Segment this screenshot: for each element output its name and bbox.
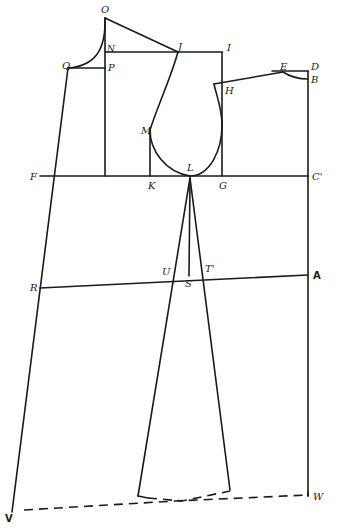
armhole-curve (150, 52, 222, 176)
label-u: U (162, 267, 170, 277)
label-k: K (148, 181, 155, 191)
neck-curve-e-b (283, 72, 308, 79)
label-f: F (30, 172, 37, 182)
label-h: H (225, 86, 234, 96)
line-l-s (189, 178, 190, 276)
label-v: V (5, 514, 13, 524)
line-skirt-hem-left (138, 496, 148, 498)
label-w: W (313, 492, 323, 502)
line-q-v (12, 68, 68, 512)
label-m: M (141, 126, 151, 136)
label-g: G (219, 181, 227, 191)
label-c-prime: C' (312, 172, 322, 182)
line-h-e (214, 72, 283, 84)
label-q: Q (62, 61, 70, 71)
label-a: A (313, 271, 321, 281)
hem-dashed-skirt (148, 491, 230, 501)
label-d: D (311, 62, 319, 72)
label-o: O (101, 5, 109, 15)
line-o-j (105, 18, 178, 52)
label-n: N (107, 45, 115, 54)
label-s: S (185, 279, 192, 289)
label-l: L (187, 163, 194, 173)
label-p: P (108, 63, 115, 73)
line-l-u-skirt (138, 178, 190, 496)
label-e: E (280, 62, 287, 72)
label-b: B (311, 75, 318, 85)
label-j: J (178, 42, 182, 52)
neck-curve-o-q (68, 18, 105, 68)
label-r: R (30, 283, 38, 293)
label-t-prime: T' (205, 264, 214, 274)
line-l-t-skirt (190, 178, 230, 490)
label-i: I (227, 43, 231, 53)
hem-dashed-v-w (24, 495, 308, 510)
